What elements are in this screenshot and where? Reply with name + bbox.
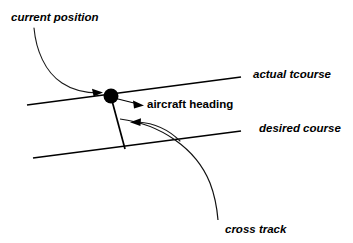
label-current-position: current position [11, 11, 99, 23]
label-actual-course: actual tcourse [253, 68, 332, 80]
current-position-dot [104, 89, 119, 104]
label-aircraft-heading: aircraft heading [147, 98, 233, 110]
diagram-canvas: current position actual tcourse aircraft… [0, 0, 353, 243]
label-cross-track: cross track [225, 223, 287, 235]
diagram-root: current position actual tcourse aircraft… [0, 0, 353, 243]
label-desired-course: desired course [259, 122, 341, 134]
